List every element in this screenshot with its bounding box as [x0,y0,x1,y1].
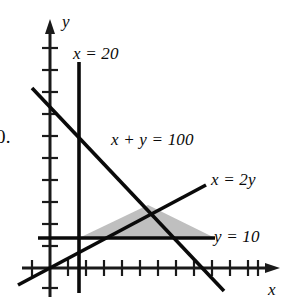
figure-container: 0. y x x = 20 x + y = 100 x = 2y y = 10 [0,0,290,306]
y-axis-arrowhead [45,19,55,34]
line-label-x-plus-y-equals-100: x + y = 100 [111,131,194,148]
line-label-y-equals-10: y = 10 [214,228,260,245]
line-label-x-equals-20: x = 20 [73,45,119,62]
line-label-x-equals-2y: x = 2y [211,171,256,188]
coordinate-plane-graphic [0,0,290,306]
problem-number-label: 0. [0,127,11,146]
x-axis-arrowhead [265,263,280,273]
x-axis-label: x [268,281,276,298]
y-axis-label: y [62,13,70,30]
